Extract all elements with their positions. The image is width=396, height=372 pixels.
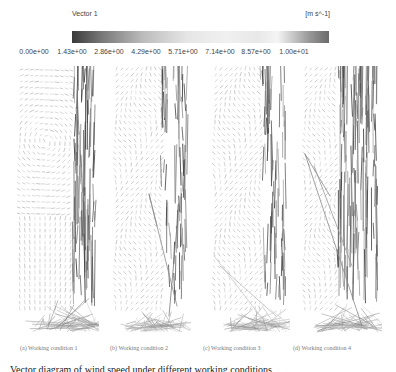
figure-caption: Vector diagram of wind speed under diffe… bbox=[10, 364, 272, 372]
colorbar-tick: 4.29e+00 bbox=[131, 48, 160, 55]
colorbar-tick: 1.00e+01 bbox=[279, 48, 308, 55]
colorbar bbox=[72, 31, 329, 43]
vector-panel-c bbox=[212, 66, 290, 336]
colorbar-tick: 0.00e+00 bbox=[19, 48, 48, 55]
colorbar-tick: 5.71e+00 bbox=[168, 48, 197, 55]
vector-panel-d bbox=[302, 66, 382, 336]
legend-title: Vector 1 bbox=[72, 10, 98, 17]
subplot-caption-a: (a) Working condition 1 bbox=[20, 345, 78, 351]
vector-panel-a bbox=[17, 66, 99, 336]
legend-unit: [m s^-1] bbox=[305, 10, 330, 17]
colorbar-ticks: 0.00e+00 1.43e+00 2.86e+00 4.29e+00 5.71… bbox=[0, 48, 396, 58]
colorbar-tick: 2.86e+00 bbox=[94, 48, 123, 55]
subplot-caption-b: (b) Working condition 2 bbox=[110, 345, 168, 351]
colorbar-tick: 7.14e+00 bbox=[205, 48, 234, 55]
colorbar-tick: 8.57e+00 bbox=[241, 48, 270, 55]
subplot-caption-d: (d) Working condition 4 bbox=[293, 345, 351, 351]
vector-panel-b bbox=[113, 66, 191, 336]
colorbar-tick: 1.43e+00 bbox=[57, 48, 86, 55]
subplot-caption-c: (c) Working condition 3 bbox=[203, 345, 261, 351]
